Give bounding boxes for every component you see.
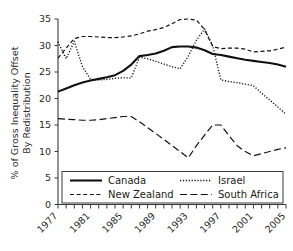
y-tick-label: 0 [45,199,51,210]
x-tick-label: 1985 [100,210,125,235]
series-line-new-zealand [58,19,286,58]
x-tick-label: 2005 [263,210,288,235]
legend-label-canada: Canada [108,175,146,186]
chart-legend: Canada Israel New Zealand South Africa [62,172,283,204]
y-axis-label: % of Gross Inequality Offset By Redistri… [9,46,32,179]
y-tick-label: 35 [39,13,51,24]
chart-container: % of Gross Inequality Offset By Redistri… [0,0,293,251]
y-tick-label: 25 [39,66,51,77]
x-tick-label: 2001 [230,210,255,235]
x-tick-label: 1981 [67,210,92,235]
x-tick-label: 1997 [197,210,222,235]
y-axis-label-line2: By Redistribution [21,72,32,153]
legend-label-israel: Israel [218,175,245,186]
legend-label-new-zealand: New Zealand [108,189,174,200]
x-axis-ticks [58,205,286,209]
series-line-south-africa [58,117,286,158]
legend-label-south-africa: South Africa [218,189,279,200]
series-line-israel [58,29,286,114]
y-axis-label-line1: % of Gross Inequality Offset [9,46,20,179]
line-chart: % of Gross Inequality Offset By Redistri… [0,0,293,251]
y-axis-tick-labels: 05101520253035 [39,13,51,210]
y-tick-label: 5 [45,172,51,183]
x-tick-label: 1993 [165,210,190,235]
y-tick-label: 15 [39,119,51,130]
x-tick-label: 1989 [132,210,157,235]
y-tick-label: 20 [39,93,51,104]
y-tick-label: 30 [39,40,51,51]
y-tick-label: 10 [39,146,51,157]
x-axis-tick-labels: 19771981198519891993199720012005 [35,210,288,235]
data-series-group [58,19,286,158]
x-tick-label: 1977 [35,210,60,235]
